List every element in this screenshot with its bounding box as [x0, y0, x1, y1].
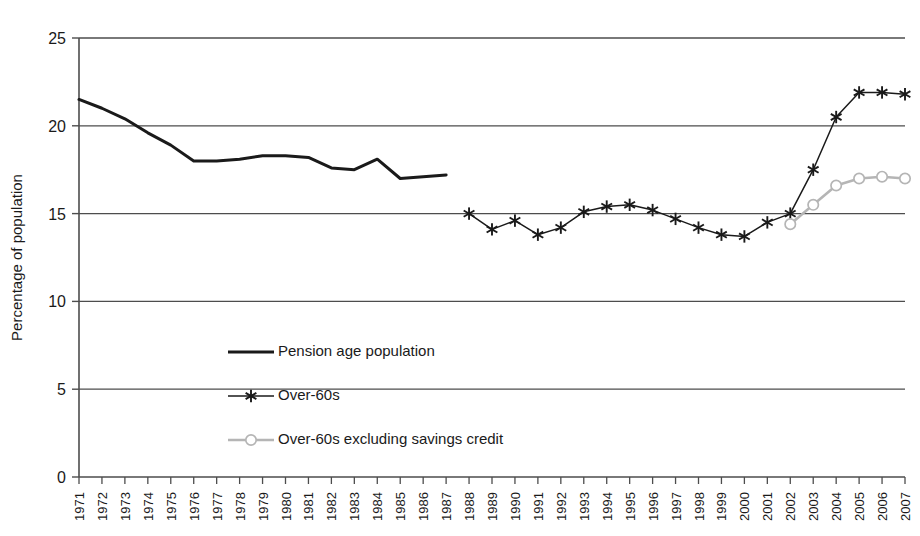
- x-tick-label: 1984: [370, 492, 385, 521]
- x-tick-label: 1974: [141, 492, 156, 521]
- x-tick-label: 1972: [95, 492, 110, 521]
- chart-container: 0510152025 19711972197319741975197619771…: [0, 0, 920, 536]
- x-tick-label: 1999: [714, 492, 729, 521]
- x-tick-label: 1997: [669, 492, 684, 521]
- x-tick-label: 1995: [623, 492, 638, 521]
- x-tick-label: 1989: [485, 492, 500, 521]
- y-tick-label: 20: [48, 118, 66, 135]
- line-chart: 0510152025 19711972197319741975197619771…: [0, 0, 920, 536]
- x-tick-label: 1998: [692, 492, 707, 521]
- circle-marker: [854, 173, 864, 183]
- x-tick-label: 1978: [233, 492, 248, 521]
- y-tick-label: 10: [48, 293, 66, 310]
- x-tick-label: 2004: [829, 492, 844, 521]
- chart-background: [0, 0, 920, 536]
- x-tick-labels: 1971197219731974197519761977197819791980…: [72, 492, 913, 521]
- circle-marker: [900, 173, 910, 183]
- x-tick-label: 1980: [279, 492, 294, 521]
- legend-label: Over-60s: [278, 386, 340, 403]
- legend-label: Over-60s excluding savings credit: [278, 430, 504, 447]
- x-tick-label: 1981: [301, 492, 316, 521]
- circle-marker: [831, 180, 841, 190]
- x-tick-label: 1973: [118, 492, 133, 521]
- y-tick-label: 5: [57, 381, 66, 398]
- x-tick-label: 1982: [324, 492, 339, 521]
- x-tick-label: 1985: [393, 492, 408, 521]
- x-tick-label: 1975: [164, 492, 179, 521]
- x-tick-label: 1977: [210, 492, 225, 521]
- x-tick-label: 1996: [646, 492, 661, 521]
- x-tick-label: 1976: [187, 492, 202, 521]
- y-tick-label: 25: [48, 30, 66, 47]
- x-tick-label: 1994: [600, 492, 615, 521]
- y-tick-label: 0: [57, 469, 66, 486]
- circle-marker: [808, 200, 818, 210]
- x-tick-label: 1986: [416, 492, 431, 521]
- x-tick-label: 2001: [760, 492, 775, 521]
- x-tick-label: 2006: [875, 492, 890, 521]
- circle-marker: [246, 435, 256, 445]
- x-tick-label: 1983: [347, 492, 362, 521]
- circle-marker: [877, 172, 887, 182]
- y-axis-title-text: Percentage of population: [8, 174, 25, 341]
- x-tick-label: 1990: [508, 492, 523, 521]
- x-tick-label: 1992: [554, 492, 569, 521]
- x-tick-label: 2003: [806, 492, 821, 521]
- x-tick-label: 1993: [577, 492, 592, 521]
- x-tick-label: 2005: [852, 492, 867, 521]
- y-tick-label: 15: [48, 206, 66, 223]
- x-tick-label: 1991: [531, 492, 546, 521]
- x-tick-label: 1988: [462, 492, 477, 521]
- x-tick-label: 1979: [256, 492, 271, 521]
- x-tick-label: 2007: [898, 492, 913, 521]
- circle-marker: [785, 219, 795, 229]
- x-tick-label: 2000: [737, 492, 752, 521]
- x-tick-label: 2002: [783, 492, 798, 521]
- y-axis-title: Percentage of population: [8, 174, 25, 341]
- x-tick-label: 1971: [72, 492, 87, 521]
- x-tick-label: 1987: [439, 492, 454, 521]
- legend-label: Pension age population: [278, 342, 435, 359]
